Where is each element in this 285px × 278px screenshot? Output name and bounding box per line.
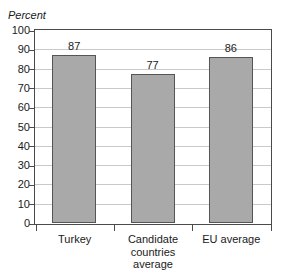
y-axis-tick-label: 20 [2, 179, 30, 190]
x-axis-tick-mark [192, 225, 193, 231]
y-axis-tick-mark [29, 88, 34, 89]
y-axis-tick-label: 90 [2, 44, 30, 55]
y-axis-tick-label: 30 [2, 160, 30, 171]
category-label-line: Turkey [36, 233, 114, 246]
y-axis-tick-mark [29, 185, 34, 186]
category-label-line: average [114, 258, 192, 271]
y-axis-tick-mark [29, 224, 34, 225]
bar-value-label: 77 [133, 60, 173, 71]
x-axis-category-label: Candidatecountriesaverage [114, 233, 192, 271]
x-axis-tick-mark [271, 225, 272, 231]
y-axis-tick-mark [29, 50, 34, 51]
y-axis-tick-label: 50 [2, 122, 30, 133]
y-axis-tick-mark [29, 204, 34, 205]
y-axis-tick-mark [29, 166, 34, 167]
x-axis-category-label: Turkey [36, 233, 114, 246]
y-axis-tick-mark [29, 31, 34, 32]
bar [52, 55, 96, 223]
y-axis-tick-label: 100 [2, 25, 30, 36]
bar [131, 74, 175, 223]
category-label-line: Candidate [114, 233, 192, 246]
y-axis-tick-mark [29, 69, 34, 70]
y-axis-tick-label: 70 [2, 83, 30, 94]
bar-value-label: 86 [211, 43, 251, 54]
y-axis-title: Percent [8, 9, 46, 21]
bar-chart: Percent 877786 0102030405060708090100 Tu… [0, 0, 285, 278]
bar-value-label: 87 [54, 41, 94, 52]
x-axis-category-label: EU average [192, 233, 270, 246]
y-axis-tick-mark [29, 146, 34, 147]
x-axis-tick-mark [114, 225, 115, 231]
x-axis-tick-mark [36, 225, 37, 231]
y-axis-tick-label: 0 [2, 218, 30, 229]
y-axis-tick-label: 40 [2, 141, 30, 152]
y-axis-tick-mark [29, 108, 34, 109]
y-axis-tick-mark [29, 127, 34, 128]
category-label-line: countries [114, 246, 192, 259]
y-axis-tick-label: 10 [2, 199, 30, 210]
y-axis-tick-label: 80 [2, 64, 30, 75]
plot-area: 877786 [34, 29, 272, 225]
category-label-line: EU average [192, 233, 270, 246]
y-axis-tick-label: 60 [2, 102, 30, 113]
bar [209, 57, 253, 223]
